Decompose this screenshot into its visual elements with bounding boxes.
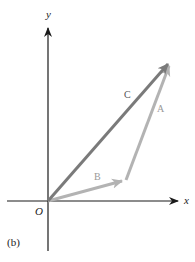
vector-a-label: A [157,103,164,114]
vector-a [126,66,169,180]
vector-diagram [0,0,195,262]
x-axis-label: x [184,194,189,206]
origin-label: O [35,205,43,217]
panel-label: (b) [7,236,20,248]
vector-c-label: C [124,89,131,100]
vector-b-label: B [94,171,101,182]
vector-b [48,181,122,201]
vector-c [48,64,168,201]
y-axis-label: y [46,8,51,20]
